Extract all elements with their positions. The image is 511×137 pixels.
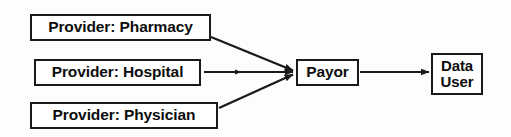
- edge-pharmacy-to-payor: [211, 37, 293, 71]
- node-payor: Payor: [296, 59, 359, 86]
- node-provider-hospital: Provider: Hospital: [34, 59, 201, 86]
- node-label: Provider: Hospital: [52, 64, 184, 80]
- edge-physician-to-payor: [219, 75, 293, 109]
- flow-diagram: Provider: Pharmacy Provider: Hospital Pr…: [0, 0, 511, 137]
- node-label: Payor: [306, 64, 349, 80]
- node-provider-physician: Provider: Physician: [30, 102, 218, 129]
- node-data-user: Data User: [431, 53, 483, 95]
- node-label-line-1: Data: [441, 58, 473, 74]
- node-provider-pharmacy: Provider: Pharmacy: [30, 14, 211, 41]
- node-label: Provider: Pharmacy: [48, 19, 193, 35]
- node-label: Provider: Physician: [53, 107, 196, 123]
- node-label-line-2: User: [441, 74, 474, 90]
